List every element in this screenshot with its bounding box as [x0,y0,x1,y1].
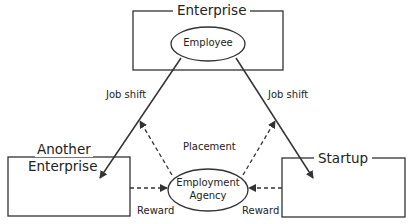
startup-title: Startup [314,152,372,166]
reward-left-label: Reward [137,206,174,216]
startup-box [282,158,405,217]
agency-label-line1: Employment [168,178,248,188]
reward-right-label: Reward [242,206,279,216]
agency-label-line2: Agency [168,191,248,201]
another-enterprise-title-line1: Another [35,143,93,157]
enterprise-title: Enterprise [173,4,250,18]
job-shift-left-label: Job shift [106,90,146,100]
another-enterprise-title-line2: Enterprise [26,160,99,174]
placement-right-arrow [243,121,275,175]
placement-label: Placement [183,142,236,152]
placement-left-arrow [140,121,172,175]
employee-label: Employee [171,38,245,48]
job-shift-right-arrow [236,58,313,178]
job-shift-right-label: Job shift [268,90,308,100]
job-shift-left-arrow [100,58,181,178]
